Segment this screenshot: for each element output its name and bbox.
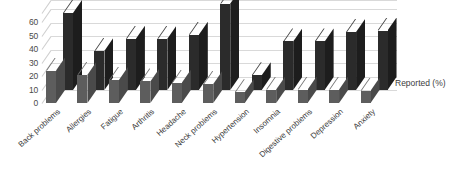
bar-top-face [346, 19, 356, 32]
bar-front-face [329, 90, 339, 104]
bar-side-face [213, 71, 222, 103]
bar-side-face [308, 77, 317, 104]
bar-front-face [298, 90, 308, 104]
bar-side-face [87, 62, 96, 103]
bar-front-face [172, 83, 182, 103]
bar-top-face [378, 18, 388, 31]
bar-side-face [182, 70, 191, 103]
bar-front-face [46, 71, 56, 103]
bar-front-series [140, 81, 150, 103]
bar-top-face [252, 62, 262, 75]
x-axis-category-labels: Back problemsAllergiesFatigueArthritisHe… [0, 104, 468, 175]
bar-top-face [126, 26, 136, 39]
bar-side-face [167, 26, 176, 90]
bar-front-series [266, 90, 276, 104]
bar-top-face [283, 28, 293, 41]
bar-side-face [371, 78, 380, 103]
bar-side-face [150, 68, 159, 103]
bar-front-series [109, 80, 119, 103]
chart-legend: Reported (%) [392, 78, 446, 88]
bar-side-face [136, 26, 145, 90]
bar-top-face [63, 0, 73, 13]
legend-label: Reported (%) [395, 78, 446, 88]
bar-top-face [315, 28, 325, 41]
bar-front-series [46, 71, 56, 103]
bar-front-series [329, 90, 339, 104]
plot-area: 6050403020100 [0, 0, 468, 120]
bar-front-face [235, 92, 245, 103]
bar-side-face [276, 77, 285, 104]
bar-side-face [356, 19, 365, 90]
bar-front-face [140, 81, 150, 103]
bar-front-face [77, 75, 87, 103]
bar-side-face [339, 77, 348, 104]
bar-front-series [298, 90, 308, 104]
bar-top-face [46, 58, 56, 71]
bar-front-series [77, 75, 87, 103]
bar-side-face [119, 67, 128, 103]
bar-side-face [325, 28, 334, 90]
bar-side-face [56, 58, 65, 103]
bar-chart: 6050403020100 Back problemsAllergiesFati… [0, 0, 468, 175]
bar-front-face [361, 91, 371, 103]
bar-front-series [203, 84, 213, 103]
bar-side-face [245, 79, 254, 103]
bar-top-face [94, 38, 104, 51]
bar-front-series [172, 83, 182, 103]
bar-front-face [266, 90, 276, 104]
bar-side-face [230, 0, 239, 90]
bar-top-face [189, 22, 199, 35]
bar-side-face [293, 28, 302, 90]
bar-front-face [203, 84, 213, 103]
bar-front-face [109, 80, 119, 103]
bar-top-face [157, 26, 167, 39]
bar-front-series [361, 91, 371, 103]
bar-front-series [235, 92, 245, 103]
